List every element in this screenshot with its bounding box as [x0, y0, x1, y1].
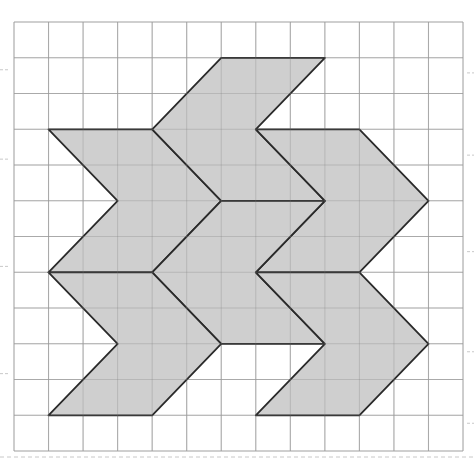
chevron-tessellation-diagram [0, 0, 474, 463]
